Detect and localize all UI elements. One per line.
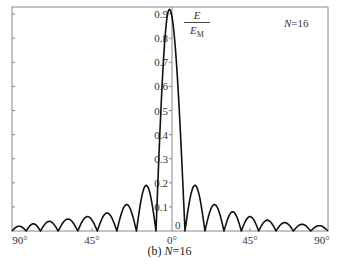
legend-value: =16 — [291, 17, 308, 29]
y-label-den-sub: M — [197, 30, 204, 39]
y-label-numerator: E — [184, 9, 210, 23]
figure-caption: (b) N=16 — [0, 244, 339, 259]
y-axis-ticks: 00.10.20.30.40.50.60.70.80.9 — [154, 8, 181, 231]
caption-prefix: (b) — [148, 244, 165, 258]
y-label-den-base: E — [190, 24, 197, 36]
legend-label: N=16 — [284, 17, 309, 29]
caption-var: N — [165, 244, 173, 258]
plot-frame — [12, 7, 328, 231]
y-tick-label: 0.8 — [154, 32, 168, 44]
y-tick-label: 0.2 — [154, 177, 168, 189]
y-tick-label: 0.7 — [154, 56, 168, 68]
pattern-curve — [12, 9, 328, 231]
caption-value: =16 — [173, 244, 192, 258]
y-tick-label: 0.4 — [154, 129, 168, 141]
y-label-denominator: EM — [184, 23, 210, 42]
y-tick-label: 0 — [175, 219, 181, 231]
plot-area: 00.10.20.30.40.50.60.70.80.9 90°45°0°45°… — [0, 0, 339, 267]
y-axis-label: E EM — [184, 9, 210, 42]
y-tick-label: 0.3 — [154, 153, 168, 165]
